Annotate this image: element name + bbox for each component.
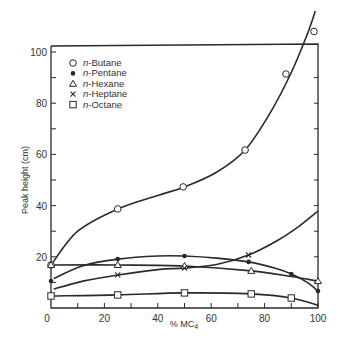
legend-item-label: n-Octane [83,99,122,110]
x-axis-title-sub: 4 [194,323,198,330]
data-point-filled-circle-icon [49,279,54,284]
x-tick-label: 40 [152,313,164,324]
legend-item-label: n-Hexane [83,78,124,89]
x-tick-label: 100 [310,313,327,324]
n-butane-curve [51,11,315,265]
legend-open-square-icon [70,101,76,107]
data-point-open-circle-icon [242,147,249,154]
legend-open-triangle-icon [70,80,77,86]
y-tick-label: 40 [36,201,48,212]
data-point-open-square-icon [181,290,187,296]
x-tick-label: 0 [44,313,50,324]
n-pentane-curve [54,256,318,291]
data-point-filled-circle-icon [289,272,294,277]
x-tick-label: 20 [99,313,111,324]
y-tick-label: 60 [36,149,48,160]
y-axis-title: Peak height (cm) [20,146,30,214]
peak-height-chart: 02040608010020406080100 n-Butanen-Pentan… [0,0,342,348]
legend-item-label: n-Butane [83,57,122,68]
legend: n-Butanen-Pentanen-Hexanen-Heptanen-Octa… [70,57,128,110]
data-point-open-circle-icon [311,28,318,35]
data-point-open-circle-icon [180,184,187,191]
legend-filled-circle-icon [71,71,76,76]
data-point-open-square-icon [115,292,121,298]
legend-open-circle-icon [70,60,77,67]
x-tick-label: 80 [259,313,271,324]
legend-x-icon [71,92,76,97]
x-axis-title: % MC4 [170,319,199,330]
legend-item-label: n-Heptane [83,88,127,99]
data-point-open-circle-icon [283,71,290,78]
data-point-filled-circle-icon [316,289,321,294]
data-point-open-square-icon [248,291,254,297]
n-heptane-curve [54,211,318,289]
data-point-filled-circle-icon [182,254,187,259]
data-point-filled-circle-icon [246,260,251,265]
legend-item-label: n-Pentane [83,67,127,78]
data-point-open-circle-icon [114,206,121,213]
y-tick-label: 100 [30,47,47,58]
series-curves [51,11,318,305]
x-tick-label: 60 [206,313,218,324]
x-axis-title-main: % MC [170,319,195,329]
y-tick-label: 20 [36,252,48,263]
data-point-open-square-icon [288,295,294,301]
data-point-open-square-icon [48,293,54,299]
y-tick-label: 80 [36,98,48,109]
